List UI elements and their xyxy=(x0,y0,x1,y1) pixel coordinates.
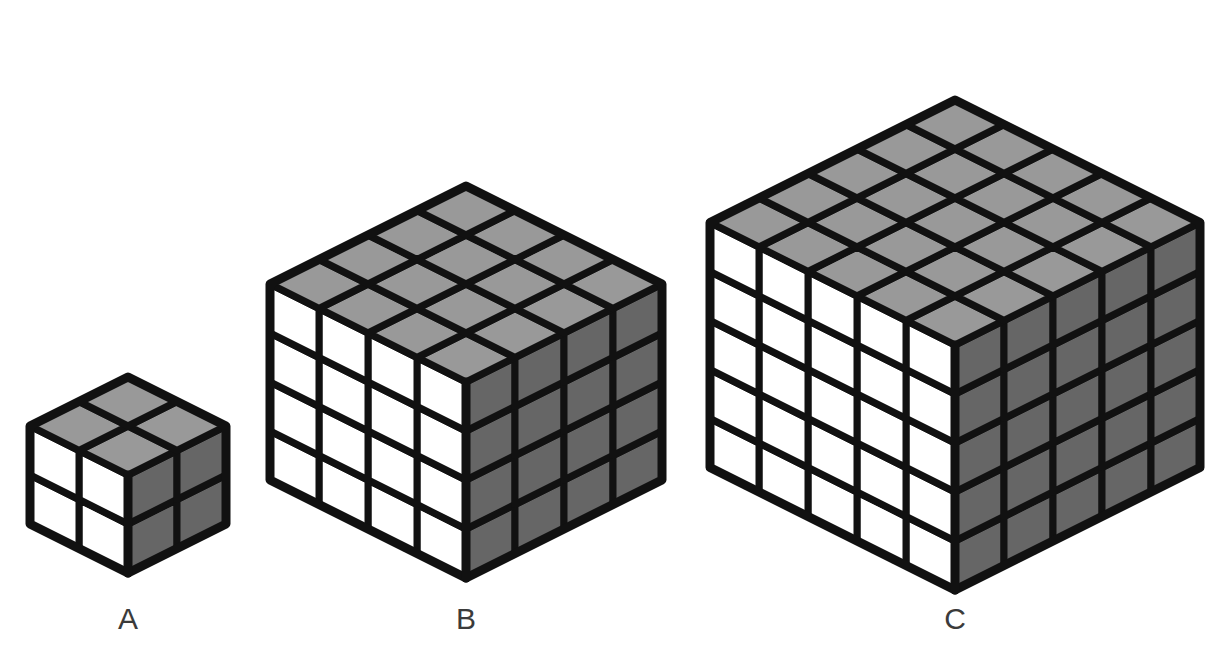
cube-a xyxy=(30,377,226,573)
isometric-cubes-illustration xyxy=(0,0,1225,649)
cube-b xyxy=(270,186,662,578)
figure-canvas: ABC xyxy=(0,0,1225,649)
cube-label-a: A xyxy=(118,604,138,634)
cube-c xyxy=(710,100,1200,590)
cube-label-c: C xyxy=(944,604,966,634)
cube-label-b: B xyxy=(456,604,476,634)
